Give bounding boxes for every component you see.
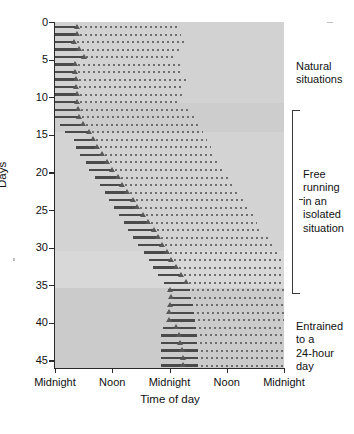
onset-marker-icon	[90, 136, 96, 141]
onset-marker-icon	[74, 31, 80, 36]
y-axis-tick	[49, 323, 54, 324]
onset-marker-icon	[145, 219, 151, 224]
y-axis-tick	[49, 135, 54, 136]
activity-row	[55, 256, 284, 264]
activity-row	[55, 136, 284, 144]
y-axis-tick-label: 10	[36, 92, 48, 103]
x-axis-tick	[112, 368, 113, 373]
y-axis-tick-label: 0	[42, 17, 48, 28]
onset-marker-icon	[180, 355, 186, 360]
y-axis-tick-label: 15	[36, 129, 48, 140]
annotation-line: to a	[296, 333, 354, 346]
activity-row	[55, 174, 284, 182]
annotation-line: 24-hour	[296, 347, 354, 360]
rest-dotted-bar	[179, 267, 284, 269]
onset-marker-icon	[86, 129, 92, 134]
annotation-line: day	[296, 360, 354, 373]
onset-marker-icon	[74, 99, 80, 104]
y-axis-tick-label: 45	[36, 355, 48, 366]
onset-marker-icon	[180, 362, 186, 367]
rest-dotted-bar	[79, 86, 184, 88]
y-axis-tick	[49, 97, 54, 98]
onset-marker-icon	[76, 46, 82, 51]
rest-dotted-bar	[78, 71, 183, 73]
onset-marker-icon	[124, 189, 130, 194]
rest-dotted-bar	[82, 49, 179, 51]
activity-row	[55, 83, 284, 91]
free-running-bracket	[292, 110, 300, 294]
onset-marker-icon	[159, 242, 165, 247]
annotation-line: situations	[296, 73, 354, 86]
rest-dotted-bar	[80, 26, 178, 28]
x-axis-tick	[227, 368, 228, 373]
rest-dotted-bar	[86, 124, 200, 126]
activity-row	[55, 23, 284, 31]
activity-row	[55, 98, 284, 106]
rest-dotted-bar	[79, 79, 186, 81]
rest-dotted-bar	[174, 259, 281, 261]
onset-marker-icon	[173, 264, 179, 269]
y-axis-tick	[49, 248, 54, 249]
rest-dotted-bar	[80, 94, 182, 96]
onset-marker-icon	[94, 144, 100, 149]
annotation-line: Entrained	[296, 320, 354, 333]
rest-dotted-bar	[201, 350, 284, 352]
onset-marker-icon	[119, 182, 125, 187]
y-axis-tick-label: 30	[36, 242, 48, 253]
activity-row	[55, 309, 284, 317]
rest-dotted-bar	[96, 139, 207, 141]
onset-marker-icon	[115, 174, 121, 179]
plot-area	[55, 22, 284, 368]
activity-row	[55, 61, 284, 69]
onset-marker-icon	[73, 76, 79, 81]
rest-dotted-bar	[165, 244, 273, 246]
x-axis-title: Time of day	[0, 393, 340, 405]
rest-dotted-bar	[201, 365, 284, 367]
actogram-figure: 051015202530354045 MidnightNoonMidnightN…	[0, 0, 354, 434]
rest-dotted-bar	[80, 101, 179, 103]
rest-dotted-bar	[201, 357, 284, 359]
onset-marker-icon	[140, 212, 146, 217]
rest-dotted-bar	[170, 252, 278, 254]
onset-marker-icon	[72, 69, 78, 74]
rest-dotted-bar	[92, 131, 203, 133]
y-axis-tick-label: 20	[36, 167, 48, 178]
y-axis-title: Days	[0, 162, 8, 188]
x-axis-tick	[284, 368, 285, 373]
rest-dotted-bar	[125, 184, 235, 186]
onset-marker-icon	[109, 167, 115, 172]
onset-marker-icon	[81, 54, 87, 59]
sleep-bar	[55, 56, 84, 58]
onset-marker-icon	[167, 287, 173, 292]
onset-marker-icon	[104, 159, 110, 164]
rest-dotted-bar	[184, 274, 284, 276]
onset-marker-icon	[178, 272, 184, 277]
y-axis-tick	[49, 22, 54, 23]
y-axis-tick-label: 35	[36, 280, 48, 291]
rest-dotted-bar	[189, 282, 284, 284]
annotation-line: isolated	[303, 208, 354, 221]
rest-dotted-bar	[200, 342, 284, 344]
rest-dotted-bar	[146, 214, 253, 216]
y-axis-tick-label: 25	[36, 205, 48, 216]
onset-marker-icon	[166, 309, 172, 314]
rest-dotted-bar	[81, 109, 191, 111]
rest-dotted-bar	[82, 116, 195, 118]
y-axis-line	[54, 22, 55, 369]
annotation-line: Natural	[296, 60, 354, 73]
onset-marker-icon	[80, 121, 86, 126]
annotation-natural-situations: Natural situations	[296, 60, 354, 87]
x-axis-tick	[170, 368, 171, 373]
y-axis-tick	[49, 210, 54, 211]
onset-marker-icon	[99, 151, 105, 156]
annotation-line: in an	[303, 195, 354, 208]
rest-dotted-bar	[161, 237, 268, 239]
activity-row	[55, 294, 284, 302]
activity-row	[55, 121, 284, 129]
onset-marker-icon	[164, 249, 170, 254]
rest-dotted-bar	[130, 192, 239, 194]
rest-dotted-bar	[194, 297, 284, 299]
onset-marker-icon	[74, 91, 80, 96]
rest-dotted-bar	[199, 327, 284, 329]
y-axis-tick	[49, 285, 54, 286]
